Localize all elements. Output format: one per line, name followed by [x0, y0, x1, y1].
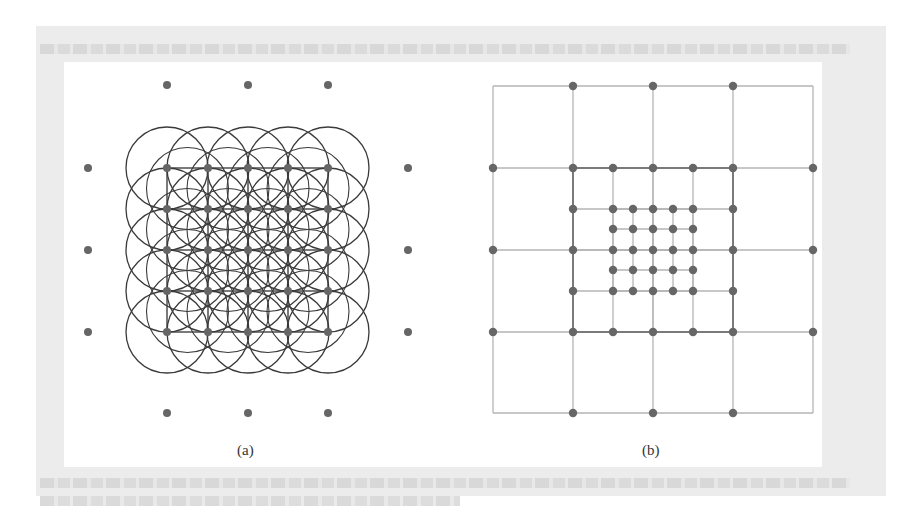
sample-dot — [649, 266, 657, 274]
sample-dot — [609, 287, 617, 295]
sample-dot — [609, 266, 617, 274]
subfigure-b-diagram — [0, 0, 901, 530]
caption-a: (a) — [237, 442, 254, 459]
sample-dot — [569, 164, 577, 172]
sample-dot — [809, 164, 817, 172]
sample-dot — [729, 164, 737, 172]
sample-dot — [729, 409, 737, 417]
sample-dot — [629, 225, 637, 233]
sample-dot — [489, 164, 497, 172]
sample-dot — [669, 287, 677, 295]
sample-dot — [569, 82, 577, 90]
caption-b: (b) — [642, 442, 660, 459]
sample-dot — [569, 328, 577, 336]
sample-dot — [649, 246, 657, 254]
sample-dot — [649, 287, 657, 295]
sample-dot — [649, 205, 657, 213]
sample-dot — [669, 205, 677, 213]
sample-dot — [569, 205, 577, 213]
sample-dot — [629, 266, 637, 274]
sample-dot — [689, 205, 697, 213]
sample-dot — [809, 328, 817, 336]
sample-dot — [609, 328, 617, 336]
sample-dot — [609, 246, 617, 254]
sample-dot — [729, 246, 737, 254]
sample-dot — [689, 246, 697, 254]
sample-dot — [729, 287, 737, 295]
sample-dot — [689, 287, 697, 295]
sample-dot — [569, 246, 577, 254]
sample-dot — [649, 225, 657, 233]
sample-dot — [649, 82, 657, 90]
sample-dot — [689, 164, 697, 172]
sample-dot — [569, 287, 577, 295]
sample-dot — [649, 409, 657, 417]
sample-dot — [609, 164, 617, 172]
sample-dot — [609, 205, 617, 213]
sample-dot — [489, 246, 497, 254]
sample-dot — [649, 328, 657, 336]
sample-dot — [489, 328, 497, 336]
sample-dot — [729, 82, 737, 90]
sample-dot — [729, 205, 737, 213]
sample-dot — [689, 266, 697, 274]
sample-dot — [669, 246, 677, 254]
sample-dot — [629, 205, 637, 213]
sample-dot — [669, 225, 677, 233]
sample-dot — [669, 266, 677, 274]
sample-dot — [629, 246, 637, 254]
sample-dot — [689, 328, 697, 336]
sample-dot — [609, 225, 617, 233]
sample-dot — [689, 225, 697, 233]
sample-dot — [809, 246, 817, 254]
sample-dot — [629, 287, 637, 295]
sample-dot — [569, 409, 577, 417]
sample-dot — [649, 164, 657, 172]
sample-dot — [729, 328, 737, 336]
